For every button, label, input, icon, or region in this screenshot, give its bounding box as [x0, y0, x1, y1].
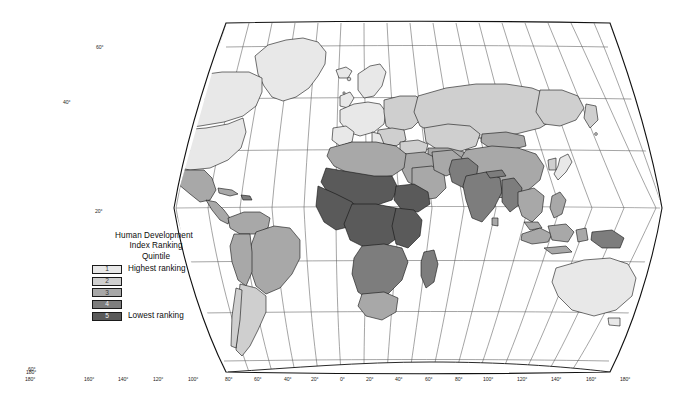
- legend-item-quintile-5[interactable]: 5 Lowest ranking: [92, 311, 220, 321]
- country-tasmania: [608, 318, 620, 326]
- legend-item-quintile-1[interactable]: 1 Highest ranking: [92, 265, 220, 275]
- legend-item-quintile-4[interactable]: 4: [92, 300, 220, 310]
- legend-item-quintile-2[interactable]: 2: [92, 276, 220, 286]
- lon-label: 0°: [340, 376, 345, 382]
- lat-label: 60°: [96, 44, 103, 50]
- legend-swatch-number: 4: [105, 301, 109, 308]
- legend-subtitle: Quintile: [92, 252, 220, 262]
- lon-label: 180°: [620, 376, 630, 382]
- lat-label: 60°: [28, 366, 35, 372]
- legend-swatch-5: 5: [92, 312, 122, 321]
- lon-label: 40°: [284, 376, 291, 382]
- legend-swatch-number: 2: [105, 278, 109, 285]
- legend-label-1: Highest ranking: [128, 264, 186, 274]
- lon-label: 180°: [25, 376, 35, 382]
- lon-label: 20°: [311, 376, 318, 382]
- country-alaska: [82, 96, 133, 124]
- lon-label: 40°: [395, 376, 402, 382]
- lon-label: 100°: [483, 376, 493, 382]
- legend-title-line1: Human Development: [88, 231, 220, 241]
- legend-title-line2: Index Ranking: [92, 241, 220, 251]
- lat-label: 40°: [63, 99, 70, 105]
- lon-label: 160°: [586, 376, 596, 382]
- country-sulawesi: [576, 228, 588, 242]
- lon-label: 140°: [118, 376, 128, 382]
- legend-class-list: 1 Highest ranking 2 3 4: [92, 265, 220, 321]
- legend-swatch-4: 4: [92, 300, 122, 309]
- world-map-figure: 180° 180° 160° 140° 120° 100° 80° 60° 40…: [0, 0, 674, 416]
- legend-item-quintile-3[interactable]: 3: [92, 288, 220, 298]
- legend-swatch-number: 1: [105, 266, 109, 273]
- legend-label-5: Lowest ranking: [128, 311, 184, 321]
- lon-label: 120°: [517, 376, 527, 382]
- lon-label: 20°: [366, 376, 373, 382]
- legend-swatch-2: 2: [92, 277, 122, 286]
- legend-swatch-3: 3: [92, 288, 122, 297]
- lon-label: 60°: [254, 376, 261, 382]
- legend-swatch-number: 5: [105, 313, 109, 320]
- lat-label: 20°: [95, 208, 102, 214]
- country-sri-lanka: [492, 218, 498, 226]
- country-korea: [548, 158, 556, 170]
- map-legend: Human Development Index Ranking Quintile…: [92, 231, 220, 323]
- lon-label: 60°: [425, 376, 432, 382]
- lon-label: 100°: [188, 376, 198, 382]
- lon-label: 120°: [153, 376, 163, 382]
- lon-label: 80°: [225, 376, 232, 382]
- country-new-zealand-south: [635, 310, 650, 326]
- country-new-zealand: [644, 296, 658, 312]
- legend-swatch-1: 1: [92, 265, 122, 274]
- lon-label: 140°: [551, 376, 561, 382]
- lon-label: 80°: [455, 376, 462, 382]
- legend-swatch-number: 3: [105, 290, 109, 297]
- lon-label: 160°: [84, 376, 94, 382]
